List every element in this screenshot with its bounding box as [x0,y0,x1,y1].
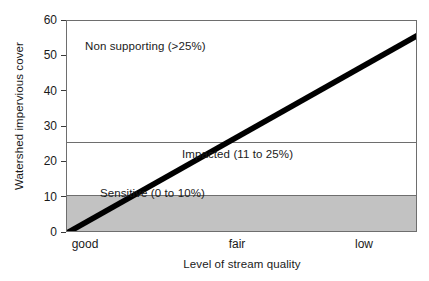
zone-label-impacted: Impacted (11 to 25%) [182,148,293,160]
zone-label-non-supporting: Non supporting (>25%) [85,40,206,52]
y-tick-label-30: 30 [44,118,57,134]
x-tick-label-low: low [355,236,373,252]
y-tick-label-20: 20 [44,153,57,169]
x-axis-title: Level of stream quality [66,258,418,270]
y-tick-label-40: 40 [44,83,57,99]
zone-label-sensitive: Sensitive (0 to 10%) [100,187,205,199]
chart-figure: Watershed impervious cover 60 50 40 30 2… [0,0,429,281]
x-tick-label-fair: fair [229,236,246,252]
y-tick-label-60: 60 [44,12,57,28]
trend-line [67,21,417,232]
x-tick-label-good: good [72,236,99,252]
y-tick-label-50: 50 [44,47,57,63]
y-tick-label-10: 10 [44,189,57,205]
y-axis-title: Watershed impervious cover [8,0,30,232]
y-tick-label-0: 0 [50,224,57,240]
